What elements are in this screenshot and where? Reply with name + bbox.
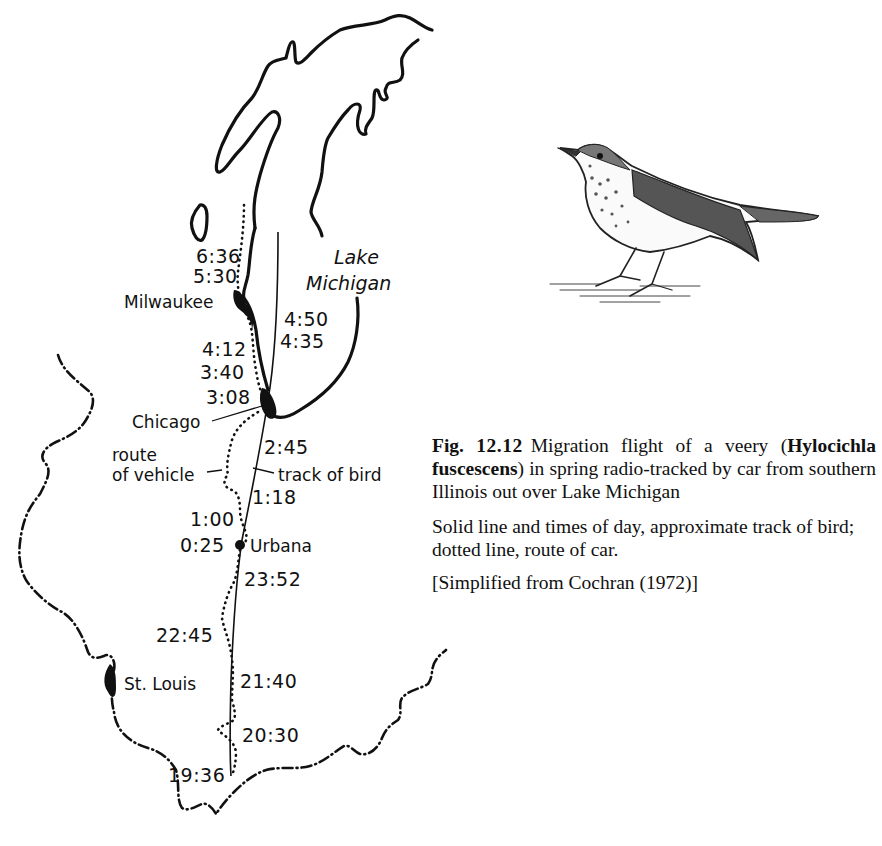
city-label-milwaukee: Milwaukee <box>124 292 213 312</box>
time-label: 6:36 <box>196 245 241 267</box>
time-label: 20:30 <box>242 724 299 746</box>
time-label: 22:45 <box>156 624 213 646</box>
time-label: 19:36 <box>168 764 225 786</box>
figure-label: Fig. 12.12 <box>432 435 531 456</box>
caption-main: Fig. 12.12Migration flight of a veery (H… <box>432 434 876 503</box>
time-label: 1:18 <box>252 486 297 508</box>
veery-bird-illustration <box>550 144 818 302</box>
time-label: 23:52 <box>244 568 301 590</box>
time-label: 1:00 <box>190 508 235 530</box>
time-label: 4:50 <box>284 308 329 330</box>
route-of-vehicle-label-1: route <box>112 445 157 465</box>
migration-map: Lake Michigan Milwaukee Chicago Urbana S… <box>0 0 882 846</box>
time-label: 3:08 <box>206 386 251 408</box>
time-label: 5:30 <box>193 265 238 287</box>
time-label: 21:40 <box>240 670 297 692</box>
figure-caption: Fig. 12.12Migration flight of a veery (H… <box>432 434 876 604</box>
lake-label-line2: Michigan <box>306 272 391 294</box>
city-label-chicago: Chicago <box>132 412 200 432</box>
time-label: 3:40 <box>200 361 245 383</box>
track-of-bird-label: track of bird <box>278 465 381 485</box>
caption-lead: Migration flight of a veery ( <box>531 435 788 456</box>
city-label-st-louis: St. Louis <box>124 674 196 694</box>
time-label: 0:25 <box>180 534 225 556</box>
route-of-vehicle-label-2: of vehicle <box>112 465 194 485</box>
time-label: 2:45 <box>264 436 309 458</box>
lake-label-line1: Lake <box>334 246 379 268</box>
time-label: 4:12 <box>202 338 247 360</box>
time-label: 4:35 <box>280 330 325 352</box>
city-label-urbana: Urbana <box>250 536 312 556</box>
source-citation: [Simplified from Cochran (1972)] <box>432 571 876 594</box>
legend-text: Solid line and times of day, approximate… <box>432 515 876 561</box>
